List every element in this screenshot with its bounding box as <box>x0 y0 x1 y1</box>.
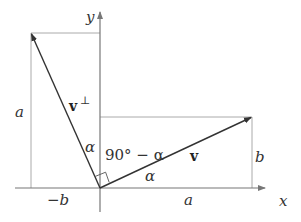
v-perp-label: v <box>68 98 78 114</box>
vector-diagram: y x v ⊥ v a a b −b α α 90° − α <box>0 0 301 222</box>
neg-b-label: −b <box>47 191 69 209</box>
alpha-upper-label: α <box>85 138 95 156</box>
b-right-label: b <box>255 148 265 166</box>
a-bottom-label: a <box>184 191 193 209</box>
x-axis-label: x <box>279 192 288 210</box>
vector-v-perp <box>32 34 101 188</box>
guide-lines <box>31 33 252 188</box>
a-left-label: a <box>15 103 24 121</box>
y-axis-label: y <box>85 8 95 26</box>
v-perp-superscript: ⊥ <box>80 94 90 107</box>
alpha-lower-label: α <box>145 167 155 185</box>
angle-complement-label: 90° − α <box>105 146 164 164</box>
v-label: v <box>189 148 199 164</box>
